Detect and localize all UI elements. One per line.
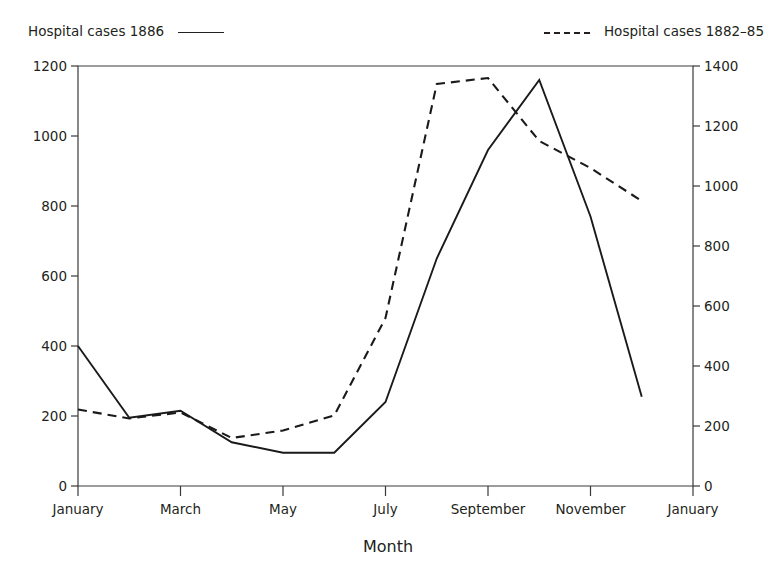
y-right-tick-label: 1200	[704, 118, 738, 134]
y-left-tick-label: 200	[41, 408, 67, 424]
x-tick-label: March	[160, 501, 201, 517]
y-right-tick-label: 1000	[704, 178, 738, 194]
y-left-tick-label: 400	[41, 338, 67, 354]
y-right-tick-label: 1400	[704, 58, 738, 74]
y-left-tick-label: 600	[41, 268, 67, 284]
x-tick-label: July	[372, 501, 397, 517]
y-right-tick-label: 0	[704, 478, 713, 494]
y-left-tick-label: 1200	[33, 58, 67, 74]
x-tick-label: November	[555, 501, 626, 517]
series-line-dashed	[78, 78, 642, 438]
y-right-tick-label: 400	[704, 358, 730, 374]
x-tick-label: January	[666, 501, 718, 517]
plot-area: 0200400600800100012000200400600800100012…	[0, 0, 776, 576]
data-series	[78, 78, 642, 453]
x-tick-label: September	[451, 501, 526, 517]
y-right-tick-label: 600	[704, 298, 730, 314]
y-left-tick-label: 800	[41, 198, 67, 214]
y-right-tick-label: 200	[704, 418, 730, 434]
x-tick-label: May	[269, 501, 297, 517]
x-tick-label: January	[51, 501, 103, 517]
series-line-solid	[78, 80, 642, 453]
x-axis-title: Month	[363, 537, 413, 556]
chart-container: Hospital cases 1886 Hospital cases 1882–…	[0, 0, 776, 576]
axis-frame	[78, 66, 693, 486]
y-left-tick-label: 0	[58, 478, 67, 494]
tick-labels: 0200400600800100012000200400600800100012…	[33, 58, 739, 517]
y-right-tick-label: 800	[704, 238, 730, 254]
tick-marks	[71, 66, 700, 496]
y-left-tick-label: 1000	[33, 128, 67, 144]
